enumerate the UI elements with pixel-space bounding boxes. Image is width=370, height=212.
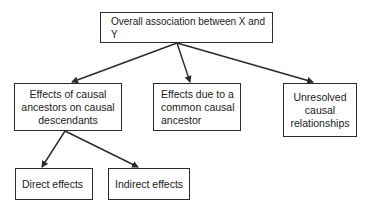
node-label: Unresolved causal relationships xyxy=(287,91,353,130)
node-ancestors-on-descendants: Effects of causal ancestors on causal de… xyxy=(14,83,122,131)
node-label: Overall association between X and Y xyxy=(111,15,272,41)
edge-root-to-unresolved xyxy=(177,43,313,82)
causal-effects-diagram: Overall association between X and Y Effe… xyxy=(0,0,370,212)
node-overall-association: Overall association between X and Y xyxy=(100,12,273,43)
node-label: Indirect effects xyxy=(115,178,189,191)
node-label: Effects of causal ancestors on causal de… xyxy=(19,88,117,127)
node-label: Effects due to a common causal ancestor xyxy=(161,88,240,127)
node-common-ancestor: Effects due to a common causal ancestor xyxy=(153,83,241,131)
node-indirect-effects: Indirect effects xyxy=(108,168,190,200)
node-direct-effects: Direct effects xyxy=(15,168,93,200)
node-label: Direct effects xyxy=(22,178,92,191)
edge-root-to-common-ancestor xyxy=(177,43,190,82)
edge-ancestors-to-indirect xyxy=(65,131,138,167)
edge-root-to-ancestors xyxy=(72,43,177,82)
edge-ancestors-to-direct xyxy=(42,131,65,167)
node-unresolved-relationships: Unresolved causal relationships xyxy=(283,83,357,137)
